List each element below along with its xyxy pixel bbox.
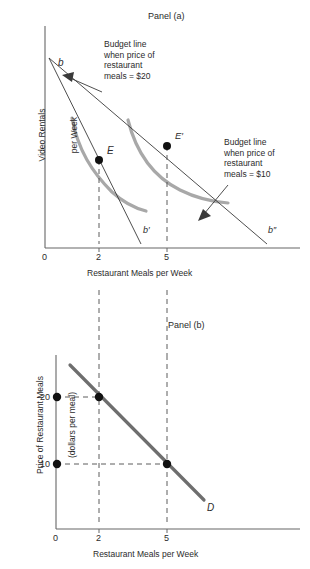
demand-curve-D (70, 365, 204, 500)
panel-a-y-axis-label-line2: per Week (69, 80, 80, 190)
panel-b-xtick-2: 2 (96, 533, 101, 544)
panel-a-xtick-2: 2 (96, 252, 101, 263)
panel-b-ytick-10: 10 (40, 459, 50, 470)
panel-b-y-axis-label-line2: (dollars per meal) (67, 335, 78, 515)
budget-endpoint-label-b-prime: b′ (143, 225, 150, 236)
panel-b-xtick-5: 5 (164, 533, 169, 544)
budget-origin-label: b (58, 58, 64, 69)
panel-b-x-axis-label: Restaurant Meals per Week (93, 549, 198, 560)
panel-b-xtick-0: 0 (53, 533, 58, 544)
demand-curve-label: D (207, 503, 214, 514)
budget-line-20-annotation: Budget line when price of restaurant mea… (104, 39, 155, 81)
budget-line-10-annotation: Budget line when price of restaurant mea… (224, 137, 275, 179)
point-price-10-quantity-5 (163, 460, 171, 468)
point-E-label: E (107, 146, 114, 157)
panel-a-y-axis-label-line1: Video Rentals (37, 80, 48, 190)
budget-endpoint-label-b-double-prime: b″ (268, 225, 276, 236)
panel-a-y-axis-label: Video Rentals per Week (16, 80, 90, 190)
panel-a-title: Panel (a) (148, 11, 185, 22)
panel-a-xtick-0: 0 (42, 252, 47, 263)
point-E-prime-label: E′ (175, 131, 183, 142)
annotation-arrow-2-head (198, 209, 211, 221)
panel-b-title: Panel (b) (168, 320, 205, 331)
point-E-prime (163, 142, 171, 150)
panel-b-ytick-20: 20 (40, 392, 50, 403)
panel-b-group (53, 355, 300, 533)
panel-b-y-axis-label-line1: Price of Restaurant Meals (35, 335, 46, 515)
point-price-20-quantity-2 (95, 393, 103, 401)
panel-a-x-axis-label: Restaurant Meals per Week (87, 268, 192, 279)
point-E (95, 156, 103, 164)
panel-b-y-axis-label: Price of Restaurant Meals (dollars per m… (14, 335, 88, 515)
panel-a-xtick-5: 5 (164, 252, 169, 263)
